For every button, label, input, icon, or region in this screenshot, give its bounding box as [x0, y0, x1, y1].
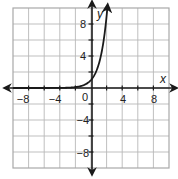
- x-tick-label-4: 4: [120, 93, 126, 105]
- graph-canvas: −8 −4 0 4 8 8 4 −4 −8 x y: [0, 0, 178, 179]
- x-axis-label: x: [159, 72, 167, 86]
- y-tick-label-neg8: −8: [76, 147, 89, 159]
- x-tick-label-8: 8: [151, 93, 157, 105]
- y-tick-label-neg4: −4: [76, 114, 89, 126]
- x-tick-label-neg4: −4: [49, 93, 62, 105]
- origin-label: 0: [82, 91, 88, 103]
- x-tick-label-neg8: −8: [17, 93, 30, 105]
- y-axis-label: y: [96, 7, 104, 21]
- y-tick-label-8: 8: [80, 18, 86, 30]
- y-tick-label-4: 4: [80, 50, 86, 62]
